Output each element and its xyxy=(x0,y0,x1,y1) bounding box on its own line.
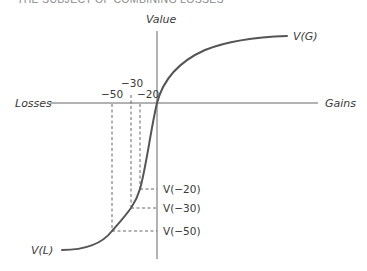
value-function-curve xyxy=(62,36,287,250)
y-mark-label-v-minus-50: V(−50) xyxy=(163,225,201,237)
curve-loss-end-label: V(L) xyxy=(31,244,53,257)
x-tick-label-minus-50: −50 xyxy=(101,88,123,100)
x-axis-right-label: Gains xyxy=(325,97,356,110)
curve-gain-end-label: V(G) xyxy=(293,30,318,43)
y-axis-label: Value xyxy=(146,13,177,26)
x-axis-left-label: Losses xyxy=(15,97,52,110)
x-tick-label-minus-20: −20 xyxy=(137,88,159,100)
y-mark-label-v-minus-30: V(−30) xyxy=(163,202,201,214)
value-function-diagram: Value Losses Gains −50 −30 −20 V(−20) V(… xyxy=(0,0,367,271)
y-mark-label-v-minus-20: V(−20) xyxy=(163,183,201,195)
